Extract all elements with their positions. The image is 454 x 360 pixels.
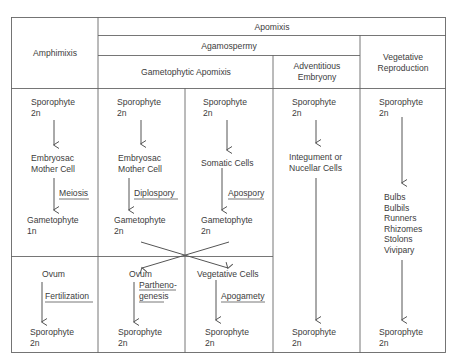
adventitious-sporophyte-end: Sporophyte 2n	[292, 327, 336, 348]
organ-stolons: Stolons	[384, 234, 422, 245]
amphimixis-sporophyte-start: Sporophyte 2n	[31, 97, 75, 118]
header-apomixis: Apomixis	[255, 22, 290, 33]
apospory-vegetative-cells: Vegetative Cells	[197, 269, 259, 280]
diplospory-ovum: Ovum	[129, 269, 152, 280]
header-gametophytic-apomixis: Gametophytic Apomixis	[141, 67, 231, 78]
header-adventitious-embryony: Adventitious Embryony	[294, 61, 341, 82]
process-diplospory: Diplospory	[134, 188, 175, 199]
header-vegetative-reproduction: Vegetative Reproduction	[377, 52, 428, 73]
organ-bulbils: Bulbils	[384, 203, 422, 214]
organ-vivipary: Vivipary	[384, 245, 422, 256]
header-amphimixis: Amphimixis	[33, 48, 77, 59]
organ-bulbs: Bulbs	[384, 192, 422, 203]
amphimixis-ovum: Ovum	[42, 269, 65, 280]
diplospory-sporophyte-end: Sporophyte 2n	[118, 327, 162, 348]
apospory-gametophyte: Gametophyte 2n	[201, 215, 253, 236]
vegetative-sporophyte-end: Sporophyte 2n	[379, 327, 423, 348]
organ-rhizomes: Rhizomes	[384, 224, 422, 235]
apospory-sporophyte-start: Sporophyte 2n	[203, 97, 247, 118]
reproduction-pathways-diagram: Amphimixis Apomixis Agamospermy Gametoph…	[0, 0, 454, 360]
diplospory-sporophyte-start: Sporophyte 2n	[117, 97, 161, 118]
adventitious-integument-nucellar-cells: Integument or Nucellar Cells	[289, 152, 342, 173]
process-fertilization: Fertilization	[45, 291, 89, 302]
header-agamospermy: Agamospermy	[201, 41, 256, 52]
diplospory-embryosac-mother-cell: Embryosac Mother Cell	[118, 153, 162, 174]
vegetative-sporophyte-start: Sporophyte 2n	[379, 97, 423, 118]
process-meiosis: Meiosis	[59, 188, 88, 199]
amphimixis-sporophyte-end: Sporophyte 2n	[30, 327, 74, 348]
amphimixis-gametophyte: Gametophyte 1n	[27, 215, 79, 236]
amphimixis-embryosac-mother-cell: Embryosac Mother Cell	[31, 153, 75, 174]
adventitious-sporophyte-start: Sporophyte 2n	[292, 97, 336, 118]
apospory-sporophyte-end: Sporophyte 2n	[205, 327, 249, 348]
apospory-somatic-cells: Somatic Cells	[201, 158, 254, 169]
process-apogamety: Apogamety	[221, 291, 264, 302]
vegetative-organs-list: Bulbs Bulbils Runners Rhizomes Stolons V…	[384, 192, 422, 255]
organ-runners: Runners	[384, 213, 422, 224]
process-apospory: Apospory	[228, 188, 264, 199]
process-parthenogenesis: Partheno- genesis	[139, 280, 177, 301]
diplospory-gametophyte: Gametophyte 2n	[114, 215, 166, 236]
